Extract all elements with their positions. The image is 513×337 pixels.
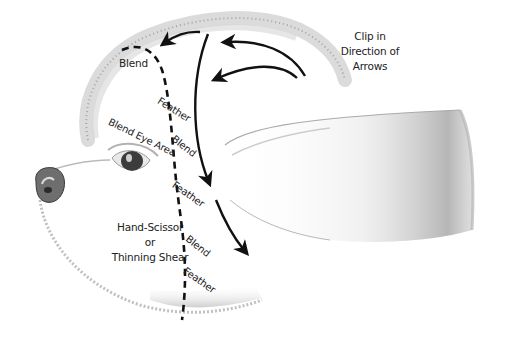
arrow-middle-right <box>218 67 297 78</box>
grooming-diagram <box>0 0 513 337</box>
ear <box>222 110 473 242</box>
nose <box>36 168 65 203</box>
arrow-long-down <box>195 34 208 180</box>
label-blend-top: Blend <box>119 58 148 69</box>
clip-direction-line-1: Clip in <box>330 29 410 44</box>
clip-direction-label: Clip in Direction of Arrows <box>330 29 410 75</box>
clip-direction-line-2: Direction of <box>330 44 410 59</box>
hand-scissor-line-3: Thinning Shear <box>98 250 202 265</box>
clip-direction-line-3: Arrows <box>330 59 410 74</box>
hand-scissor-line-1: Hand-Scissor <box>98 220 202 235</box>
